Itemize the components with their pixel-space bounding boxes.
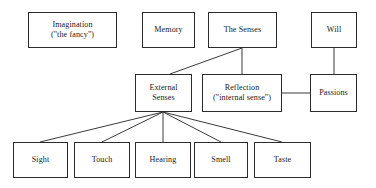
- node-the-senses[interactable]: The Senses: [208, 12, 277, 48]
- node-passions[interactable]: Passions: [310, 74, 357, 112]
- node-sublabel: ("the fancy"): [51, 30, 94, 40]
- node-imagination[interactable]: Imagination("the fancy"): [28, 12, 117, 48]
- connector-external-to-taste: [163, 112, 282, 142]
- node-sublabel: Senses: [152, 93, 175, 103]
- node-label: Reflection: [225, 83, 260, 93]
- node-sublabel: ("internal sense"): [213, 93, 271, 103]
- node-label: The Senses: [224, 25, 262, 35]
- connector-external-to-sight: [40, 112, 163, 142]
- connector-external-to-touch: [102, 112, 163, 142]
- node-label: Passions: [319, 88, 348, 98]
- node-label: Imagination: [52, 20, 92, 30]
- node-external-senses[interactable]: ExternalSenses: [135, 74, 192, 112]
- node-label: Will: [327, 25, 341, 35]
- node-hearing[interactable]: Hearing: [135, 142, 191, 178]
- diagram-canvas: Imagination("the fancy")MemoryThe Senses…: [0, 0, 376, 188]
- node-memory[interactable]: Memory: [142, 12, 195, 48]
- node-will[interactable]: Will: [311, 12, 357, 48]
- node-label: Hearing: [150, 155, 177, 165]
- node-label: Taste: [274, 155, 291, 165]
- connector-external-to-smell: [163, 112, 221, 142]
- node-label: Memory: [154, 25, 182, 35]
- node-reflection[interactable]: Reflection("internal sense"): [202, 74, 282, 112]
- node-touch[interactable]: Touch: [74, 142, 130, 178]
- node-smell[interactable]: Smell: [194, 142, 248, 178]
- node-label: Smell: [211, 155, 230, 165]
- node-label: Sight: [32, 155, 50, 165]
- node-sight[interactable]: Sight: [13, 142, 68, 178]
- node-label: External: [149, 83, 177, 93]
- node-label: Touch: [92, 155, 113, 165]
- connector-senses-to-external: [170, 48, 242, 74]
- node-taste[interactable]: Taste: [254, 142, 311, 178]
